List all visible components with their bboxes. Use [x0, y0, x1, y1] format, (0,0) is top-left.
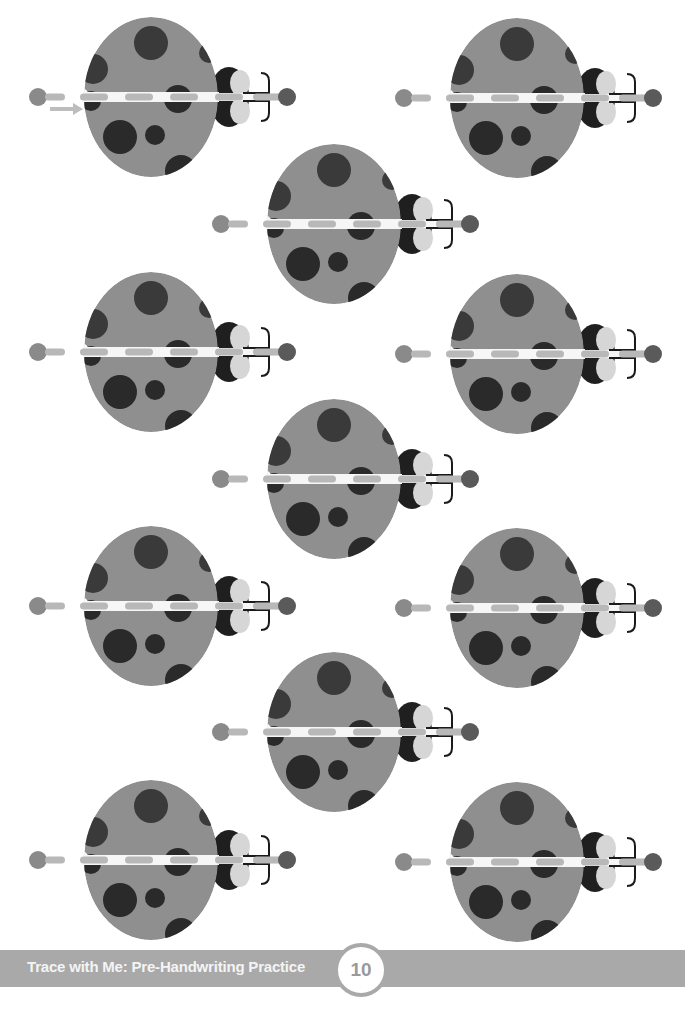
trace-dash[interactable] [619, 605, 647, 612]
page-number: 10 [350, 959, 371, 981]
start-dot[interactable] [212, 470, 230, 488]
trace-dash[interactable] [263, 221, 291, 228]
trace-dash[interactable] [125, 94, 153, 101]
trace-dash[interactable] [446, 859, 474, 866]
trace-dash[interactable] [446, 95, 474, 102]
end-dot[interactable] [644, 853, 662, 871]
end-dot[interactable] [278, 88, 296, 106]
trace-dash[interactable] [308, 729, 336, 736]
trace-dash[interactable] [536, 605, 564, 612]
trace-dash[interactable] [536, 859, 564, 866]
trace-dash[interactable] [125, 857, 153, 864]
trace-dash[interactable] [353, 729, 381, 736]
start-dot[interactable] [395, 345, 413, 363]
trace-dash[interactable] [253, 857, 281, 864]
trace-dash[interactable] [253, 603, 281, 610]
trace-dash[interactable] [170, 94, 198, 101]
ladybug-spot [199, 552, 219, 572]
end-dot[interactable] [278, 343, 296, 361]
ladybug-spot [565, 554, 585, 574]
end-dot[interactable] [461, 470, 479, 488]
trace-dash[interactable] [436, 476, 464, 483]
ladybug [29, 17, 296, 187]
trace-dash[interactable] [446, 351, 474, 358]
ladybug-spot [165, 664, 197, 696]
trace-dash[interactable] [215, 603, 243, 610]
start-dot[interactable] [29, 597, 47, 615]
trace-dash[interactable] [215, 857, 243, 864]
trace-dash[interactable] [80, 349, 108, 356]
trace-dash[interactable] [80, 94, 108, 101]
end-dot[interactable] [644, 345, 662, 363]
end-dot[interactable] [644, 89, 662, 107]
start-dot[interactable] [29, 343, 47, 361]
trace-dash[interactable] [536, 95, 564, 102]
start-dot[interactable] [212, 215, 230, 233]
ladybug-spot [500, 791, 534, 825]
start-dot[interactable] [395, 599, 413, 617]
start-dot[interactable] [29, 851, 47, 869]
trace-dash[interactable] [253, 94, 281, 101]
arrow-right-icon [50, 103, 83, 115]
trace-dash[interactable] [170, 603, 198, 610]
ladybug-spot [444, 311, 474, 341]
start-dot[interactable] [212, 723, 230, 741]
trace-dash[interactable] [80, 857, 108, 864]
ladybug-spot [500, 537, 534, 571]
ladybug [395, 274, 662, 444]
trace-dash[interactable] [581, 605, 609, 612]
ladybug-spot [444, 55, 474, 85]
end-dot[interactable] [278, 597, 296, 615]
trace-dash[interactable] [436, 221, 464, 228]
trace-dash[interactable] [253, 349, 281, 356]
ladybug-spot [165, 155, 197, 187]
start-dot[interactable] [395, 853, 413, 871]
trace-dash[interactable] [619, 95, 647, 102]
ladybug-spot [328, 252, 348, 272]
end-dot[interactable] [461, 723, 479, 741]
trace-dash[interactable] [170, 349, 198, 356]
trace-dash[interactable] [125, 349, 153, 356]
trace-dash[interactable] [398, 476, 426, 483]
trace-dash[interactable] [263, 729, 291, 736]
trace-dash[interactable] [581, 95, 609, 102]
trace-dash[interactable] [308, 476, 336, 483]
end-dot[interactable] [461, 215, 479, 233]
ladybug-spot [78, 563, 108, 593]
trace-dash[interactable] [536, 351, 564, 358]
trace-dash[interactable] [398, 221, 426, 228]
trace-dash[interactable] [491, 351, 519, 358]
trace-dash[interactable] [491, 95, 519, 102]
trace-dash[interactable] [215, 349, 243, 356]
end-dot[interactable] [644, 599, 662, 617]
tracing-worksheet [0, 0, 685, 1018]
start-dot[interactable] [395, 89, 413, 107]
trace-dash[interactable] [263, 476, 291, 483]
trace-dash[interactable] [170, 857, 198, 864]
trace-dash[interactable] [308, 221, 336, 228]
trace-dash[interactable] [215, 94, 243, 101]
trace-dash[interactable] [491, 859, 519, 866]
trace-dash[interactable] [619, 351, 647, 358]
trace-dash[interactable] [80, 603, 108, 610]
trace-dash[interactable] [491, 605, 519, 612]
ladybug-spot [531, 920, 563, 952]
end-dot[interactable] [278, 851, 296, 869]
ladybug-spot [78, 817, 108, 847]
start-dot[interactable] [29, 88, 47, 106]
ladybug-spot [444, 819, 474, 849]
ladybug-spot [382, 425, 402, 445]
ladybug-spot [134, 535, 168, 569]
ladybug-spot [469, 377, 503, 411]
trace-dash[interactable] [436, 729, 464, 736]
trace-dash[interactable] [581, 351, 609, 358]
trace-dash[interactable] [125, 603, 153, 610]
ladybug-spot [565, 300, 585, 320]
trace-dash[interactable] [353, 476, 381, 483]
trace-dash[interactable] [581, 859, 609, 866]
trace-dash[interactable] [398, 729, 426, 736]
trace-dash[interactable] [446, 605, 474, 612]
ladybug-spot [145, 634, 165, 654]
trace-dash[interactable] [619, 859, 647, 866]
trace-dash[interactable] [353, 221, 381, 228]
